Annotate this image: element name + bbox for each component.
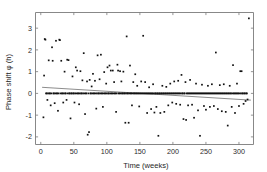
y-tick-label-3: 3: [28, 24, 32, 33]
data-point: [115, 111, 117, 113]
x-axis-tick-labels: 050100150200250300: [39, 147, 245, 156]
data-point: [88, 131, 90, 133]
data-point: [201, 84, 203, 86]
data-point: [74, 102, 76, 104]
data-point: [160, 112, 162, 114]
data-point: [119, 70, 121, 72]
data-point: [184, 93, 186, 95]
y-axis-title: Phase shift φ (h): [4, 54, 13, 110]
data-point: [102, 106, 104, 108]
data-point: [60, 60, 62, 62]
data-point: [203, 105, 205, 107]
data-point: [75, 66, 77, 68]
data-point: [199, 135, 201, 137]
data-point: [50, 105, 52, 107]
data-point: [148, 86, 150, 88]
data-point: [138, 106, 140, 108]
data-point: [183, 118, 185, 120]
data-point: [57, 110, 59, 112]
y-tick-label-0: 0: [28, 89, 32, 98]
data-point: [209, 106, 211, 108]
data-point: [109, 65, 111, 67]
y-tick-label--2: -2: [26, 132, 32, 141]
data-points-layer: [43, 18, 250, 137]
tick-marks: [36, 13, 254, 145]
data-point: [163, 111, 165, 113]
data-point: [100, 54, 102, 56]
data-point: [195, 83, 197, 85]
data-point: [219, 84, 221, 86]
data-point: [161, 85, 163, 87]
data-point: [84, 113, 86, 115]
data-point: [76, 70, 78, 72]
data-point: [167, 105, 169, 107]
data-point: [211, 83, 213, 85]
data-point: [241, 70, 243, 72]
data-point: [116, 93, 118, 95]
plot-axes: [36, 13, 254, 145]
data-point: [165, 86, 167, 88]
data-point: [181, 74, 183, 76]
data-point: [156, 106, 158, 108]
data-point: [191, 104, 193, 106]
data-point: [88, 93, 90, 95]
data-point: [110, 70, 112, 72]
x-tick-label-50: 50: [70, 147, 78, 156]
data-point: [217, 108, 219, 110]
data-point: [227, 125, 229, 127]
data-point: [146, 112, 148, 114]
data-point: [112, 70, 114, 72]
phase-shift-scatter-figure: 050100150200250300 -2-10123 Time (weeks)…: [0, 0, 267, 172]
data-point: [58, 93, 60, 95]
data-point: [129, 65, 131, 67]
x-tick-label-300: 300: [233, 147, 245, 156]
data-point: [245, 100, 247, 102]
data-point: [43, 75, 45, 77]
data-point: [213, 105, 215, 107]
data-point: [107, 66, 109, 68]
data-point: [225, 111, 227, 113]
data-point: [152, 83, 154, 85]
data-point: [87, 134, 89, 136]
data-point: [177, 80, 179, 82]
data-point: [89, 79, 91, 81]
data-point: [134, 73, 136, 75]
data-point: [128, 122, 130, 124]
data-point: [158, 135, 160, 137]
data-point: [68, 59, 70, 61]
data-point: [66, 99, 68, 101]
data-point: [221, 110, 223, 112]
data-point: [169, 83, 171, 85]
data-point: [55, 40, 57, 42]
data-point: [70, 118, 72, 120]
x-tick-label-250: 250: [200, 147, 212, 156]
data-point: [86, 81, 88, 83]
data-point: [80, 70, 82, 72]
data-point: [232, 64, 234, 66]
data-point: [136, 85, 138, 87]
data-point: [124, 122, 126, 124]
data-point: [185, 119, 187, 121]
data-point: [86, 93, 88, 95]
data-point: [150, 108, 152, 110]
data-point: [78, 103, 80, 105]
data-point: [231, 106, 233, 108]
data-point: [171, 102, 173, 104]
data-point: [92, 73, 94, 75]
data-point: [47, 99, 49, 101]
data-point: [175, 103, 177, 105]
data-point: [179, 104, 181, 106]
data-point: [207, 85, 209, 87]
data-point: [126, 36, 128, 38]
data-point: [64, 71, 66, 73]
data-point: [131, 105, 133, 107]
data-point: [105, 83, 107, 85]
data-point: [113, 81, 115, 83]
data-point: [132, 81, 134, 83]
data-point: [51, 46, 53, 48]
data-point: [189, 79, 191, 81]
x-axis-title: Time (weeks): [123, 161, 169, 170]
data-point: [62, 102, 64, 104]
scatter-plot-canvas: 050100150200250300 -2-10123 Time (weeks)…: [0, 0, 267, 172]
data-point: [229, 85, 231, 87]
